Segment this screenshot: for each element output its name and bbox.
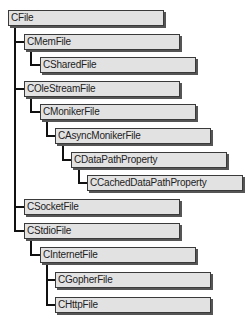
node-cmemfile: CMemFile bbox=[24, 34, 180, 50]
connector-cinternetfile bbox=[30, 254, 40, 256]
connector-ccacheddatapathproperty bbox=[78, 182, 87, 184]
node-cinternetfile: CInternetFile bbox=[40, 247, 196, 263]
connector-csharedfile bbox=[30, 64, 40, 66]
node-csharedfile: CSharedFile bbox=[40, 57, 196, 73]
node-cstdiofile: CStdioFile bbox=[24, 223, 180, 239]
node-cgopherfile: CGopherFile bbox=[55, 272, 211, 288]
connector-casyncmonikerfile bbox=[46, 135, 55, 137]
connector-chttpfile bbox=[46, 304, 55, 306]
node-colestreamfile: COleStreamFile bbox=[24, 81, 180, 97]
node-cmonikerfile: CMonikerFile bbox=[40, 104, 196, 120]
node-cfile: CFile bbox=[8, 10, 164, 26]
node-cdatapathproperty: CDataPathProperty bbox=[71, 152, 227, 168]
connector-cfile-trunk bbox=[14, 26, 16, 232]
connector-colestreamfile bbox=[14, 88, 24, 90]
connector-cgopherfile bbox=[46, 279, 55, 281]
connector-cmemfile bbox=[14, 41, 24, 43]
node-csocketfile: CSocketFile bbox=[24, 199, 180, 215]
connector-csocketfile bbox=[14, 206, 24, 208]
node-chttpfile: CHttpFile bbox=[55, 297, 211, 313]
connector-cdatapathproperty bbox=[62, 159, 71, 161]
node-ccacheddatapathproperty: CCachedDataPathProperty bbox=[87, 175, 243, 191]
connector-cinternetfile-trunk bbox=[46, 263, 48, 305]
connector-cstdiofile bbox=[14, 230, 24, 232]
node-casyncmonikerfile: CAsyncMonikerFile bbox=[55, 128, 211, 144]
connector-cmonikerfile bbox=[30, 111, 40, 113]
